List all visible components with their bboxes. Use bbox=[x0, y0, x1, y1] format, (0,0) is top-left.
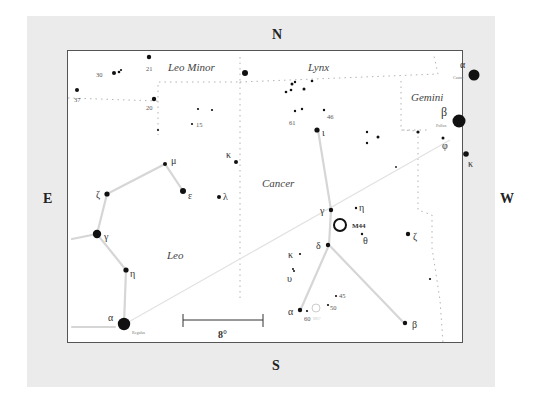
star-gamma-cancri bbox=[329, 208, 333, 212]
label-50: 50 bbox=[330, 304, 337, 311]
label-eta-cancri: η bbox=[359, 202, 364, 213]
star-21 bbox=[147, 55, 151, 59]
star-zeta-cancri bbox=[406, 232, 410, 236]
label-kappa-geminorum: κ bbox=[468, 158, 473, 169]
label-mu-leonis: μ bbox=[171, 155, 176, 166]
scale-bar bbox=[183, 314, 263, 327]
constellation-label-lynx: Lynx bbox=[307, 61, 329, 73]
constellation-label-gemini: Gemini bbox=[411, 91, 443, 103]
label-alpha-leonis: α bbox=[108, 312, 114, 323]
label-kappa-cancri: κ bbox=[288, 249, 293, 260]
star-delta-cancri bbox=[326, 243, 330, 247]
star-kappa bbox=[234, 160, 238, 164]
star-15 bbox=[191, 123, 193, 125]
label-beta-cancri: β bbox=[412, 319, 417, 330]
label-castor: Castor bbox=[453, 75, 464, 80]
label-phi-geminorum: φ bbox=[442, 140, 448, 151]
label-20: 20 bbox=[146, 104, 153, 111]
label-regulus: Regulus bbox=[132, 330, 146, 335]
star-chart: 8° bbox=[0, 0, 551, 400]
label-30: 30 bbox=[96, 71, 103, 78]
star-zeta-leonis bbox=[104, 191, 109, 196]
scale-bar-label: 8° bbox=[218, 329, 227, 340]
star-46 bbox=[323, 109, 325, 111]
label-61: 61 bbox=[289, 119, 296, 126]
star-60 bbox=[306, 310, 308, 312]
label-45: 45 bbox=[339, 292, 346, 299]
label-pollux: Pollux bbox=[436, 123, 446, 128]
star-45 bbox=[335, 295, 337, 297]
label-gamma-cancri: γ bbox=[319, 205, 325, 216]
label-m44: M44 bbox=[352, 222, 366, 230]
label-delta-cancri: δ bbox=[316, 240, 321, 251]
label-iota-cancri: ι bbox=[322, 127, 325, 138]
label-zeta-leonis: ζ bbox=[96, 189, 100, 201]
label-gamma-leonis: γ bbox=[103, 231, 109, 242]
constellation-label-leo: Leo bbox=[166, 249, 184, 261]
label-37: 37 bbox=[74, 96, 81, 103]
star-lambda bbox=[217, 195, 221, 199]
star-epsilon-leonis bbox=[180, 188, 186, 194]
label-theta-cancri: θ bbox=[363, 235, 368, 246]
label-lambda: λ bbox=[223, 191, 228, 202]
m44-cluster-icon bbox=[334, 219, 346, 231]
star-20 bbox=[152, 97, 156, 101]
star-kappa-cancri bbox=[299, 253, 301, 255]
star-upsilon-cancri bbox=[292, 268, 294, 270]
star-37 bbox=[75, 88, 79, 92]
label-21: 21 bbox=[146, 65, 153, 72]
star-mu-leonis bbox=[163, 162, 167, 166]
star-eta-leonis bbox=[123, 267, 128, 272]
label-alpha-geminorum: α bbox=[460, 59, 466, 70]
constellation-label-cancer: Cancer bbox=[262, 177, 295, 189]
ecliptic-line bbox=[125, 140, 450, 324]
star-alpha-cancri bbox=[298, 308, 302, 312]
star-castor bbox=[469, 70, 480, 81]
label-kappa: κ bbox=[226, 149, 231, 160]
label-eta-leonis: η bbox=[130, 268, 135, 279]
star-gamma-leonis bbox=[93, 230, 101, 238]
star-beta-cancri bbox=[403, 321, 407, 325]
label-zeta-cancri: ζ bbox=[413, 231, 417, 243]
star-30 bbox=[112, 71, 116, 75]
label-m67: M67 bbox=[313, 316, 321, 321]
star-61 bbox=[294, 110, 296, 112]
label-15: 15 bbox=[196, 121, 203, 128]
label-beta-geminorum: β bbox=[441, 105, 447, 119]
star-kappa-geminorum bbox=[463, 151, 469, 157]
label-alpha-cancri: α bbox=[288, 306, 294, 317]
constellation-label-leo-minor: Leo Minor bbox=[167, 61, 215, 73]
star-pollux bbox=[453, 115, 466, 128]
star-eta-cancri bbox=[355, 207, 357, 209]
star-50 bbox=[327, 304, 329, 306]
star-regulus bbox=[118, 318, 130, 330]
star-iota-cancri bbox=[314, 127, 319, 132]
label-60: 60 bbox=[304, 315, 311, 322]
label-upsilon-cancri: υ bbox=[287, 273, 292, 284]
label-46: 46 bbox=[327, 113, 334, 120]
m67-cluster-icon bbox=[312, 304, 320, 312]
label-epsilon-leonis: ε bbox=[188, 190, 192, 201]
